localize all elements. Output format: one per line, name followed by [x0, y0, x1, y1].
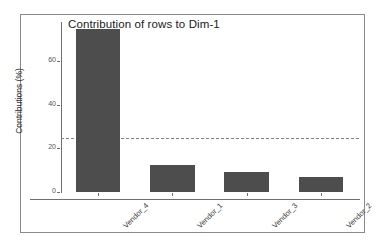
x-tick-mark — [321, 193, 322, 196]
y-axis-title: Contributions (%) — [14, 46, 24, 156]
y-tick-mark — [57, 105, 60, 106]
y-tick-text: 40 — [26, 100, 56, 107]
y-tick-mark — [57, 148, 60, 149]
bar — [76, 29, 121, 192]
y-tick-label: 40 — [26, 100, 56, 110]
y-tick-label: 20 — [26, 143, 56, 153]
x-tick-mark — [98, 193, 99, 196]
y-tick-mark — [57, 61, 60, 62]
bar — [299, 177, 344, 192]
x-tick-mark — [247, 193, 248, 196]
bar — [224, 172, 269, 192]
bar — [150, 165, 195, 192]
x-tick-mark — [172, 193, 173, 196]
y-tick-text: 0 — [26, 187, 56, 194]
y-tick-mark — [57, 192, 60, 193]
y-tick-text: 20 — [26, 143, 56, 150]
y-tick-label: 0 — [26, 187, 56, 197]
x-axis-line — [30, 199, 360, 200]
y-tick-text: 60 — [26, 56, 56, 63]
y-tick-label: 60 — [26, 56, 56, 66]
chart-figure: Contribution of rows to Dim-1 Contributi… — [0, 0, 388, 245]
bars-container — [61, 22, 358, 192]
